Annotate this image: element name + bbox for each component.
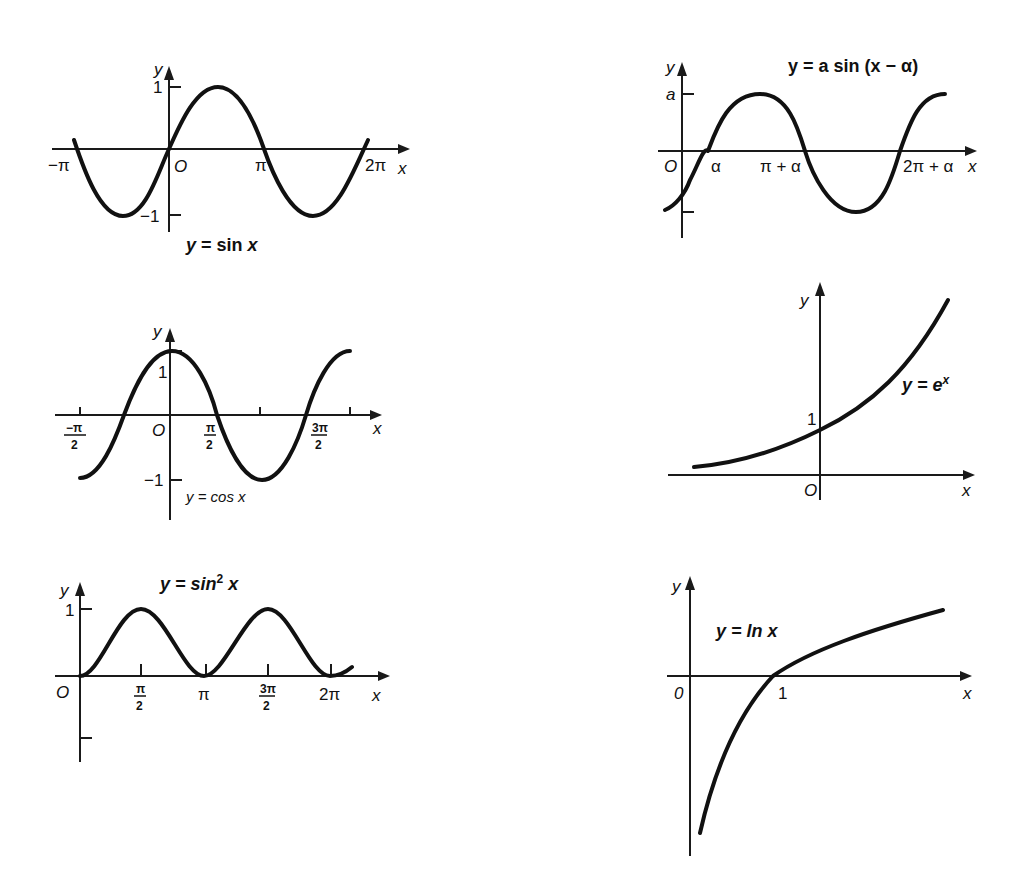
axis-label: y = sin2 x	[159, 572, 239, 594]
y-axis-arrow-icon	[685, 576, 695, 590]
axis-label: 3π	[260, 682, 276, 696]
chart-a-sin-shift: y a O α π + α 2π + α x y = a sin (x − α)	[620, 0, 1025, 260]
a-sin-curve	[665, 94, 945, 212]
axis-label: 3π	[312, 421, 328, 435]
axis-label: y	[153, 60, 164, 79]
axis-label: y	[671, 577, 682, 596]
x-axis-arrow-icon	[963, 470, 975, 480]
axis-label: 2π	[319, 685, 340, 704]
axis-label: y = sin	[159, 574, 217, 594]
axis-label: y	[665, 58, 676, 77]
chart-sin: y x O −π π 2π 1 −1 y = sin x	[0, 0, 420, 290]
axis-label: 2π + α	[903, 157, 954, 176]
axis-label: π	[206, 421, 215, 435]
x-axis-arrow-icon	[965, 146, 977, 156]
axis-label: a	[666, 85, 675, 104]
chart-ln: y x 0 1 y = ln x	[650, 560, 1025, 880]
axis-label: y = sin x	[185, 235, 259, 255]
axis-label: y = ln x	[715, 621, 779, 641]
axis-label: O	[152, 421, 165, 440]
sin-plot: y x O −π π 2π 1 −1 y = sin x	[0, 0, 420, 290]
axis-label: x	[247, 235, 259, 255]
a-sin-plot: y a O α π + α 2π + α x y = a sin (x − α)	[620, 0, 1025, 260]
axis-label: 1	[778, 684, 787, 703]
axis-label: π	[255, 156, 267, 175]
axis-label: x	[967, 157, 977, 176]
axis-label: y	[799, 291, 810, 310]
axis-label: = sin	[201, 235, 243, 255]
axis-label: −1	[140, 207, 159, 226]
axis-label: x	[372, 419, 382, 438]
cos-plot: y x O −π 2 π 2 3π 2 1 −1 y = cos x	[0, 300, 420, 520]
x-axis-arrow-icon	[398, 144, 410, 154]
x-axis-arrow-icon	[960, 671, 972, 681]
y-axis-arrow-icon	[75, 582, 85, 596]
axis-label: −1	[144, 471, 163, 490]
axis-label: y = ex	[901, 373, 951, 395]
axis-label: O	[804, 481, 817, 500]
axis-label: 1	[65, 601, 74, 620]
chart-sin-squared: y x O 1 π 2 π 3π 2 2π y = sin2 x	[0, 560, 420, 780]
exp-plot: y x O 1 y = ex	[640, 260, 1025, 520]
axis-label: O	[174, 157, 187, 176]
axis-label: y	[59, 581, 70, 600]
axis-label: x	[371, 686, 381, 705]
axis-label: 2	[206, 438, 213, 452]
axis-label: x	[223, 574, 239, 594]
axis-label: π + α	[760, 157, 801, 176]
y-axis-arrow-icon	[677, 62, 687, 76]
axis-label: 2	[136, 699, 143, 713]
axis-label: O	[664, 157, 677, 176]
axis-label: y = a sin (x − α)	[788, 56, 918, 76]
axis-label: α	[711, 157, 721, 176]
y-axis-arrow-icon	[815, 282, 825, 296]
axis-label: x	[942, 373, 951, 387]
axis-label: y	[185, 235, 197, 255]
axis-label: 2	[315, 438, 322, 452]
axis-label: 2	[263, 699, 270, 713]
axis-label: 1	[153, 78, 162, 97]
x-axis-arrow-icon	[378, 671, 390, 681]
axis-label: x	[961, 481, 971, 500]
axis-label: y = cos x	[185, 488, 246, 505]
y-axis-arrow-icon	[165, 328, 175, 342]
axis-label: −π	[48, 156, 70, 175]
axis-label: y = e	[901, 375, 943, 395]
chart-cos: y x O −π 2 π 2 3π 2 1 −1 y = cos x	[0, 300, 420, 520]
axis-label: x	[397, 159, 407, 178]
ln-curve	[700, 610, 943, 833]
axis-label: 1	[158, 363, 167, 382]
axis-label: 2	[71, 438, 78, 452]
sin-curve	[74, 87, 368, 216]
sin-squared-curve	[80, 609, 352, 676]
axis-label: −π	[66, 421, 82, 435]
axis-label: π	[136, 682, 145, 696]
axis-label: x	[962, 684, 972, 703]
sin-squared-plot: y x O 1 π 2 π 3π 2 2π y = sin2 x	[0, 560, 420, 780]
axis-label: π	[198, 685, 210, 704]
y-axis-arrow-icon	[164, 66, 174, 80]
axis-label: y	[152, 322, 163, 341]
axis-label: 2π	[365, 156, 386, 175]
chart-exp: y x O 1 y = ex	[640, 260, 1025, 520]
ln-plot: y x 0 1 y = ln x	[650, 560, 1025, 880]
axis-label: O	[56, 683, 69, 702]
axis-label: 1	[807, 410, 816, 429]
axis-label: 0	[674, 684, 684, 703]
